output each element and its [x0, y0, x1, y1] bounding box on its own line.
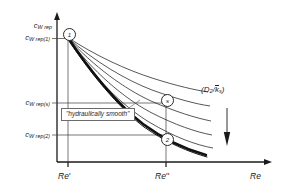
marker-point-1[interactable]: 1 — [63, 28, 76, 41]
relative-roughness-label: (D2/ks) — [201, 86, 224, 95]
marker-point-2-label: 2 — [166, 137, 169, 143]
x-axis-label: Re — [250, 172, 261, 181]
roughness-k-symbol: k — [215, 86, 219, 94]
callout-leader-line — [129, 100, 140, 108]
y-tick-2-sub: W rep(2) — [29, 133, 50, 139]
y-axis-label-sub: W rep — [38, 24, 52, 30]
x-tick-2-main: Re — [155, 171, 166, 181]
x-tick-1-prime: ' — [69, 171, 71, 181]
rough-curve-5 — [67, 37, 213, 148]
x-axis-arrowhead — [264, 159, 272, 165]
marker-point-s-label: s — [166, 98, 169, 104]
x-tick-label-re-double-prime: Re'' — [155, 172, 170, 181]
x-tick-group — [68, 162, 166, 167]
y-tick-label-cw-rep-1: cW rep(1) — [0, 34, 50, 43]
y-axis-label: cW rep — [6, 22, 52, 31]
arrow-head — [224, 132, 230, 146]
figure-canvas: cW rep cW rep(1) cW rep(s) cW rep(2) Re'… — [0, 0, 281, 194]
rough-curve-family — [67, 37, 213, 148]
marker-point-2[interactable]: 2 — [161, 133, 174, 146]
y-tick-label-cw-rep-s: cW rep(s) — [0, 99, 50, 108]
thick-smooth-curve-shadow — [67, 38, 207, 157]
y-tick-s-sub: W rep(s) — [29, 101, 50, 107]
rough-curve-2 — [67, 37, 210, 106]
y-tick-label-cw-rep-2: cW rep(2) — [0, 131, 50, 140]
roughness-close-paren: ) — [222, 85, 225, 94]
y-tick-1-sub: W rep(1) — [29, 36, 50, 42]
marker-point-1-label: 1 — [68, 32, 71, 38]
marker-point-s[interactable]: s — [161, 94, 174, 107]
x-tick-label-re-prime: Re' — [58, 172, 71, 181]
y-axis-arrowhead — [54, 12, 60, 20]
callout-leader-group — [129, 100, 140, 108]
hydraulically-smooth-callout: "hydraulically smooth" — [61, 108, 135, 121]
increasing-roughness-arrow — [224, 108, 230, 146]
x-tick-2-prime: '' — [166, 171, 170, 181]
x-tick-1-main: Re — [58, 171, 69, 181]
leader-line-group — [52, 39, 166, 168]
